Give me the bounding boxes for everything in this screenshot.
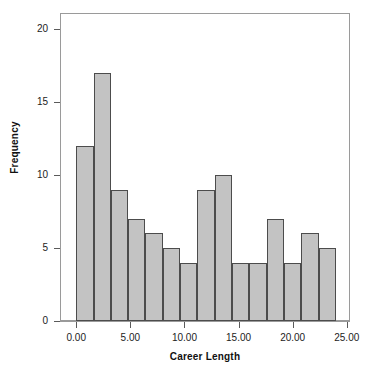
histogram-bar bbox=[180, 263, 197, 321]
y-tick-label: 20 bbox=[8, 24, 48, 34]
x-tick-mark bbox=[76, 322, 77, 328]
x-tick-label: 25.00 bbox=[317, 332, 366, 344]
x-tick-label: 0.00 bbox=[46, 332, 106, 344]
x-axis-line bbox=[60, 321, 350, 322]
x-axis-title: Career Length bbox=[60, 351, 350, 362]
x-tick-label: 10.00 bbox=[154, 332, 214, 344]
x-tick-label: 15.00 bbox=[209, 332, 269, 344]
histogram-bar bbox=[249, 263, 266, 321]
y-axis-title: Frequency bbox=[9, 103, 20, 193]
y-tick-mark bbox=[54, 102, 60, 103]
y-tick-mark bbox=[54, 29, 60, 30]
histogram-bar bbox=[111, 190, 128, 321]
x-tick-label: 5.00 bbox=[100, 332, 160, 344]
x-tick-label: 20.00 bbox=[263, 332, 323, 344]
y-tick-label: 5 bbox=[8, 243, 48, 253]
y-tick-mark bbox=[54, 175, 60, 176]
x-tick-mark bbox=[130, 322, 131, 328]
histogram-bar bbox=[319, 248, 336, 321]
histogram-bar bbox=[215, 175, 232, 321]
histogram-bar bbox=[301, 233, 318, 321]
histogram-bar bbox=[284, 263, 301, 321]
y-tick-mark bbox=[54, 248, 60, 249]
histogram-bar bbox=[145, 233, 162, 321]
bars-layer bbox=[60, 13, 350, 321]
y-tick-label: 0 bbox=[8, 316, 48, 326]
x-tick-mark bbox=[347, 322, 348, 328]
histogram-bar bbox=[128, 219, 145, 321]
histogram-bar bbox=[232, 263, 249, 321]
histogram-bar bbox=[163, 248, 180, 321]
x-tick-mark bbox=[293, 322, 294, 328]
histogram-bar bbox=[94, 73, 111, 321]
histogram-bar bbox=[197, 190, 214, 321]
x-tick-mark bbox=[184, 322, 185, 328]
histogram-bar bbox=[76, 146, 93, 321]
x-tick-mark bbox=[239, 322, 240, 328]
y-axis-line bbox=[60, 13, 61, 321]
histogram-chart: 05101520 Frequency 0.005.0010.0015.0020.… bbox=[0, 0, 366, 373]
histogram-bar bbox=[267, 219, 284, 321]
